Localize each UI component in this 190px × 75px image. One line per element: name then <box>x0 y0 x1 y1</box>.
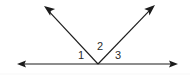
arrow-upper-left-icon <box>44 6 55 16</box>
bottom-edge-tint <box>0 73 190 75</box>
angle-diagram: 1 2 3 <box>0 0 190 75</box>
angle-label-1: 1 <box>78 49 84 61</box>
upper-left-ray <box>49 11 99 64</box>
angle-label-3: 3 <box>115 49 121 61</box>
upper-right-ray <box>98 10 150 64</box>
angle-label-2: 2 <box>97 40 103 52</box>
angle-diagram-svg: 1 2 3 <box>0 0 190 75</box>
